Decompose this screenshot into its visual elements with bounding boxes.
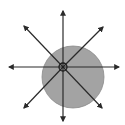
origin-point-dot: [62, 66, 64, 68]
diagram-figure: [0, 0, 125, 125]
diagram-canvas: [0, 0, 125, 125]
arrow-northwest-icon: [24, 26, 63, 67]
